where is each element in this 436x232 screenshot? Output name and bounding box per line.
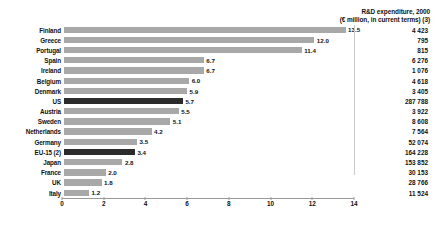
bar-row: Japan2.8153 852	[0, 157, 436, 167]
category-label: UK	[0, 179, 64, 186]
x-tick-label: 4	[144, 200, 148, 207]
bar-row: US5.7287 788	[0, 96, 436, 106]
expenditure-value: 28 766	[351, 179, 436, 186]
x-tick-label: 12	[309, 200, 316, 207]
expenditure-value: 30 153	[351, 169, 436, 176]
category-label: Japan	[0, 159, 64, 166]
category-label: Italy	[0, 190, 64, 197]
bar	[64, 139, 137, 145]
category-label: Spain	[0, 57, 64, 64]
category-label: Netherlands	[0, 128, 64, 135]
expenditure-value: 7 564	[351, 128, 436, 135]
bar-row: France2.030 153	[0, 168, 436, 178]
bar-row: Denmark5.93 405	[0, 86, 436, 96]
category-label: EU-15 (2)	[0, 149, 64, 156]
bar-value-label: 12.0	[317, 37, 329, 44]
expenditure-value: 1 076	[351, 67, 436, 74]
bar	[64, 108, 179, 114]
category-label: Sweden	[0, 118, 64, 125]
bar-value-label: 5.7	[185, 98, 194, 105]
bar-value-label: 5.9	[190, 88, 199, 95]
bar-track: 4.2	[64, 127, 351, 137]
bar-value-label: 5.1	[173, 118, 182, 125]
bar-track: 6.7	[64, 66, 351, 76]
bar-value-label: 11.4	[304, 47, 316, 54]
x-tick-label: 8	[227, 200, 231, 207]
bar-value-label: 4.2	[154, 128, 163, 135]
chart-container: R&D expenditure, 2000 (€ million, in cur…	[0, 0, 436, 232]
category-label: Greece	[0, 37, 64, 44]
category-label: Ireland	[0, 67, 64, 74]
bar-row: EU-15 (2)3.4164 228	[0, 147, 436, 157]
bar	[64, 128, 152, 134]
bar-value-label: 3.4	[137, 149, 146, 156]
expenditure-value: 164 228	[351, 149, 436, 156]
header-line-2: (€ million, in current terms) (3)	[340, 16, 430, 24]
category-label: Portugal	[0, 47, 64, 54]
bar-row: Sweden5.18 608	[0, 117, 436, 127]
expenditure-value: 287 788	[351, 98, 436, 105]
bar-track: 1.2	[64, 188, 351, 198]
bar-value-label: 3.5	[140, 138, 149, 145]
bar-row: Ireland6.71 076	[0, 66, 436, 76]
bar-value-label: 6.0	[192, 77, 201, 84]
expenditure-value: 8 608	[351, 118, 436, 125]
bar-track: 5.7	[64, 96, 351, 106]
bar-row: Italy1.211 524	[0, 188, 436, 198]
bar-row: Germany3.552 074	[0, 137, 436, 147]
expenditure-value: 4 423	[351, 27, 436, 34]
bar-track: 5.9	[64, 86, 351, 96]
bar	[64, 67, 204, 73]
bar	[64, 57, 204, 63]
header-line-1: R&D expenditure, 2000	[340, 8, 430, 16]
bar	[64, 159, 122, 165]
x-tick-label: 6	[185, 200, 189, 207]
bar-track: 3.5	[64, 137, 351, 147]
expenditure-value: 815	[351, 47, 436, 54]
bar-track: 6.7	[64, 56, 351, 66]
bar-track: 2.8	[64, 157, 351, 167]
x-axis-ticks: 02468101214	[62, 200, 354, 212]
category-label: Germany	[0, 139, 64, 146]
expenditure-value: 3 405	[351, 88, 436, 95]
bar-track: 5.5	[64, 107, 351, 117]
bar	[64, 98, 183, 104]
bar	[64, 118, 170, 124]
bar-value-label: 1.8	[104, 179, 113, 186]
bar-value-label: 1.2	[92, 189, 101, 196]
x-axis-line	[62, 198, 354, 199]
bar-row: Portugal11.4815	[0, 45, 436, 55]
bar-track: 3.4	[64, 147, 351, 157]
bar	[64, 37, 314, 43]
plot-area: Finland13.54 423Greece12.0795Portugal11.…	[0, 25, 436, 210]
category-label: France	[0, 169, 64, 176]
bar-row: Austria5.53 922	[0, 107, 436, 117]
bar	[64, 179, 102, 185]
bar-row: Netherlands4.27 564	[0, 127, 436, 137]
bar-value-label: 2.0	[108, 169, 117, 176]
category-label: Austria	[0, 108, 64, 115]
bar	[64, 27, 346, 33]
x-tick-label: 2	[102, 200, 106, 207]
x-tick-label: 14	[350, 200, 357, 207]
expenditure-value: 4 618	[351, 78, 436, 85]
x-tick-label: 10	[267, 200, 274, 207]
bar-value-label: 5.5	[181, 108, 190, 115]
bar-value-label: 6.7	[206, 67, 215, 74]
bar-row: Finland13.54 423	[0, 25, 436, 35]
bar-row: Greece12.0795	[0, 35, 436, 45]
bar	[64, 47, 302, 53]
category-label: US	[0, 98, 64, 105]
category-label: Finland	[0, 27, 64, 34]
bar	[64, 190, 89, 196]
chart-header: R&D expenditure, 2000 (€ million, in cur…	[340, 8, 430, 23]
bar-row: UK1.828 766	[0, 178, 436, 188]
x-tick-label: 0	[60, 200, 64, 207]
bar-track: 5.1	[64, 117, 351, 127]
bar-row: Belgium6.04 618	[0, 76, 436, 86]
expenditure-value: 795	[351, 37, 436, 44]
expenditure-value: 3 922	[351, 108, 436, 115]
category-label: Denmark	[0, 88, 64, 95]
bar-track: 1.8	[64, 178, 351, 188]
bar-value-label: 2.8	[125, 159, 134, 166]
